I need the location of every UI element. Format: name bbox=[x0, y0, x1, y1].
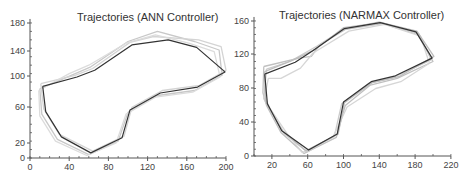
ann-trajectory-run bbox=[41, 37, 226, 152]
narmax-y-tick-label: 0 bbox=[244, 151, 249, 161]
narmax-trajectory-run bbox=[264, 22, 431, 152]
narmax-y-tick-label: 120 bbox=[234, 49, 249, 59]
narmax-x-tick-label: 180 bbox=[408, 160, 423, 170]
ann-chart: Trajectories (ANN Controller) 0408012016… bbox=[0, 0, 234, 177]
ann-y-tick-label: 180 bbox=[10, 18, 25, 28]
ann-x-tick-label: 200 bbox=[218, 162, 233, 172]
narmax-trajectory-run bbox=[265, 23, 434, 151]
ann-y-tick-label: 100 bbox=[10, 71, 25, 81]
narmax-plot: 206010014018022004080120160 bbox=[234, 0, 469, 177]
narmax-y-tick-label: 160 bbox=[234, 16, 249, 26]
ann-plot: 0408012016020002060100140180 bbox=[0, 0, 234, 177]
narmax-y-tick-label: 80 bbox=[239, 83, 249, 93]
narmax-x-tick-label: 100 bbox=[336, 160, 351, 170]
ann-x-tick-label: 160 bbox=[179, 162, 194, 172]
narmax-y-tick-label: 40 bbox=[239, 117, 249, 127]
narmax-x-tick-label: 220 bbox=[443, 160, 458, 170]
narmax-chart: Trajectories (NARMAX Controller) 2060100… bbox=[234, 0, 469, 177]
ann-y-tick-label: 0 bbox=[20, 153, 25, 163]
ann-main-trajectory bbox=[43, 40, 225, 153]
ann-y-tick-label: 60 bbox=[15, 102, 25, 112]
narmax-x-tick-label: 140 bbox=[372, 160, 387, 170]
ann-y-tick-label: 20 bbox=[15, 138, 25, 148]
narmax-trajectory-run bbox=[263, 24, 433, 154]
narmax-main-trajectory bbox=[265, 23, 432, 151]
ann-x-tick-label: 80 bbox=[103, 162, 113, 172]
ann-x-tick-label: 0 bbox=[27, 162, 32, 172]
ann-trajectory-run bbox=[40, 31, 222, 154]
ann-y-tick-label: 140 bbox=[10, 46, 25, 56]
narmax-x-tick-label: 20 bbox=[267, 160, 277, 170]
ann-x-tick-label: 40 bbox=[64, 162, 74, 172]
ann-x-tick-label: 120 bbox=[140, 162, 155, 172]
narmax-trajectory-run bbox=[265, 24, 430, 152]
narmax-x-tick-label: 60 bbox=[303, 160, 313, 170]
